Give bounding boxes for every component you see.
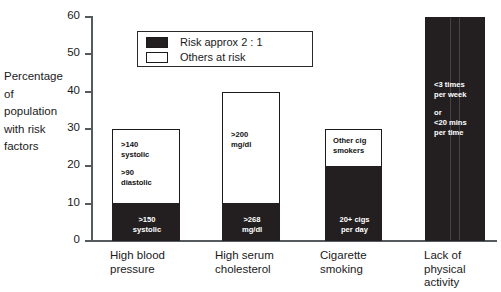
- legend-label-others-at-risk: Others at risk: [180, 52, 245, 63]
- bar-label-b2-black: 20+ cigs per day: [326, 215, 383, 235]
- bar-label-b1-white: >200 mg/dl: [231, 130, 251, 150]
- bar-segment-risk-2-1-1: >150 systolic: [112, 203, 180, 241]
- x-category-label-lack-of-physical-activity: Lack of physical activity: [424, 249, 466, 290]
- bar-label-b0-white-a: >140 systolic: [121, 140, 149, 160]
- bar-label-b2-white: Other cig smokers: [333, 136, 366, 156]
- bar-segment-risk-2-1-4: <3 times per week or <20 mins per time: [425, 17, 485, 241]
- y-tick-label-10: 10: [42, 197, 80, 209]
- y-tick-0: [85, 240, 92, 242]
- x-category-label-high-blood-pressure: High blood pressure: [110, 249, 165, 276]
- y-axis-title: Percentage of population with risk facto…: [4, 68, 82, 156]
- y-tick-label-60-wrap: 60: [42, 10, 80, 22]
- y-tick-label-60: 60: [42, 10, 80, 22]
- x-category-label-cigarette-smoking: Cigarette smoking: [320, 249, 367, 276]
- y-axis-title-line-3: population: [4, 103, 82, 121]
- y-tick-10: [85, 203, 92, 205]
- legend-item-risk-approx: Risk approx 2 : 1: [146, 36, 263, 50]
- y-axis-title-line-2: of: [4, 86, 82, 104]
- y-tick-label-0-wrap: 0: [42, 234, 80, 246]
- bar-segment-risk-2-1-3: 20+ cigs per day: [325, 166, 382, 241]
- legend-label-risk-approx: Risk approx 2 : 1: [180, 37, 263, 48]
- y-tick-label-0: 0: [42, 234, 80, 246]
- y-tick-label-50-wrap: 50: [42, 47, 80, 59]
- legend-swatch-white-icon: [146, 52, 168, 63]
- y-tick-20: [85, 165, 92, 167]
- bar-label-b0-white-b: >90 diastolic: [121, 168, 152, 188]
- chart-legend: Risk approx 2 : 1 Others at risk: [137, 31, 313, 67]
- y-axis-title-line-4: with risk: [4, 121, 82, 139]
- y-tick-60: [85, 16, 92, 18]
- y-tick-40: [85, 91, 92, 93]
- x-category-label-high-serum-cholesterol: High serum cholesterol: [215, 249, 274, 276]
- y-tick-label-20-wrap: 20: [42, 159, 80, 171]
- bar-segment-others-at-risk-2: >200 mg/dl: [222, 92, 280, 204]
- bar-label-b3-black-a: <3 times per week: [434, 80, 467, 100]
- bar-segment-others-at-risk-1: >140 systolic >90 diastolic: [112, 129, 180, 204]
- y-axis-title-line-1: Percentage: [4, 68, 82, 86]
- bar-segment-risk-2-1-2: >268 mg/dl: [222, 203, 280, 241]
- bar-label-b1-black: >268 mg/dl: [223, 215, 281, 235]
- bar-chart: 60 50 40 30 20 10 0 Percentage of popula…: [0, 0, 501, 292]
- bar-label-b0-black: >150 systolic: [113, 215, 181, 235]
- legend-swatch-black-icon: [146, 37, 168, 48]
- legend-item-others-at-risk: Others at risk: [146, 51, 245, 65]
- y-tick-label-50: 50: [42, 47, 80, 59]
- y-tick-50: [85, 53, 92, 55]
- bar-label-b3-black-b: or <20 mins per time: [434, 108, 467, 139]
- y-axis-title-line-5: factors: [4, 138, 82, 156]
- y-tick-label-20: 20: [42, 159, 80, 171]
- y-tick-label-10-wrap: 10: [42, 197, 80, 209]
- bar-segment-others-at-risk-3: Other cig smokers: [325, 129, 382, 167]
- y-tick-30: [85, 128, 92, 130]
